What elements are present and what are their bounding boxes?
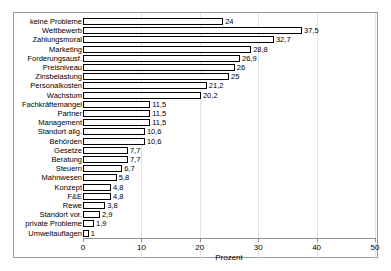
bar <box>83 92 201 99</box>
bar <box>83 156 128 163</box>
x-tick-mark-20 <box>200 238 201 242</box>
bar <box>83 147 128 154</box>
x-tick-label-40: 40 <box>312 243 321 252</box>
bar <box>83 202 105 209</box>
x-axis-label: Prozent <box>83 253 375 262</box>
bar <box>83 193 111 200</box>
bar <box>83 184 111 191</box>
bar <box>83 128 145 135</box>
bar <box>83 101 150 108</box>
category-label: Umweltauflagen <box>28 229 82 239</box>
x-tick-label-0: 0 <box>81 243 85 252</box>
bar <box>83 110 150 117</box>
bar <box>83 82 207 89</box>
x-tick-label-20: 20 <box>195 243 204 252</box>
x-axis-line <box>83 238 375 239</box>
x-tick-label-30: 30 <box>254 243 263 252</box>
bar <box>83 55 240 62</box>
bar <box>83 165 122 172</box>
plot-area: keine Probleme24Wettbewerb37,5Zahlungsmo… <box>14 13 379 259</box>
x-tick-mark-40 <box>317 238 318 242</box>
bar <box>83 64 235 71</box>
x-tick-mark-0 <box>83 238 84 242</box>
bar <box>83 119 150 126</box>
x-tick-mark-30 <box>258 238 259 242</box>
bar <box>83 174 117 181</box>
bar <box>83 18 223 25</box>
bar <box>83 220 94 227</box>
chart-frame: keine Probleme24Wettbewerb37,5Zahlungsmo… <box>13 12 378 258</box>
bar <box>83 138 145 145</box>
bar <box>83 211 100 218</box>
bar <box>83 73 229 80</box>
bar <box>83 36 274 43</box>
x-tick-label-10: 10 <box>137 243 146 252</box>
x-tick-mark-50 <box>375 238 376 242</box>
bar <box>83 27 302 34</box>
x-tick-label-50: 50 <box>371 243 380 252</box>
bar <box>83 46 251 53</box>
x-tick-mark-10 <box>141 238 142 242</box>
